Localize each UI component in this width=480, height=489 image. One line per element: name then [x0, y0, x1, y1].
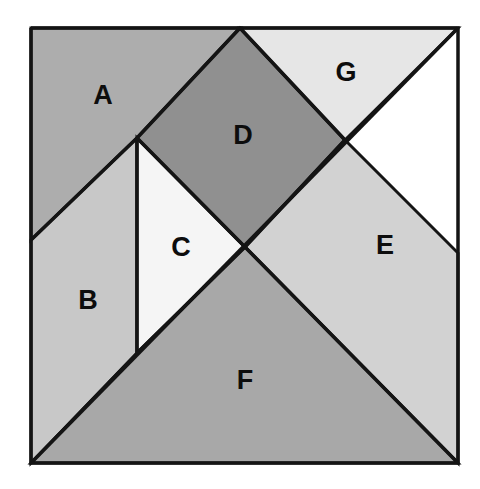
piece-label-d: D: [233, 120, 253, 150]
piece-label-c: C: [171, 232, 191, 262]
piece-label-e: E: [376, 230, 394, 260]
piece-label-b: B: [78, 285, 98, 315]
tangram-svg-canvas: A B C D E F G: [0, 0, 480, 489]
piece-label-g: G: [335, 57, 356, 87]
piece-label-f: F: [237, 365, 254, 395]
piece-label-a: A: [93, 80, 113, 110]
tangram-figure: A B C D E F G: [0, 0, 480, 489]
